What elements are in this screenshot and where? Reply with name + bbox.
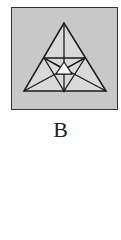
vertex-dot <box>63 90 65 92</box>
figure-label: B <box>0 119 121 141</box>
